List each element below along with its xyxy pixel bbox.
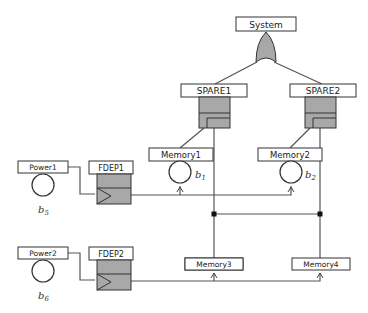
- svg-text:b6: b6: [38, 290, 49, 303]
- fdep-gate-fdep2[interactable]: FDEP2: [89, 247, 133, 290]
- top-event-label: System: [249, 20, 283, 30]
- basic-event-circle-icon: [32, 260, 54, 282]
- basic-event-power1[interactable]: Power1 b5: [18, 161, 68, 217]
- fdep-gate-fdep1[interactable]: FDEP1: [89, 161, 133, 204]
- basic-event-circle-icon: [280, 161, 302, 183]
- svg-text:FDEP1: FDEP1: [98, 164, 124, 173]
- svg-text:Power1: Power1: [29, 163, 57, 172]
- svg-text:FDEP2: FDEP2: [98, 250, 124, 259]
- svg-text:Memory4: Memory4: [303, 260, 339, 269]
- junction-dot: [212, 212, 217, 217]
- svg-text:b1: b1: [195, 169, 206, 182]
- fdep-gate-icon: [97, 260, 131, 290]
- basic-event-power2[interactable]: Power2 b6: [18, 247, 68, 303]
- basic-event-memory2[interactable]: Memory2 b2: [258, 148, 322, 183]
- spare-gate-spare2[interactable]: SPARE2: [290, 84, 356, 128]
- basic-event-circle-icon: [169, 161, 191, 183]
- junction-dot: [318, 212, 323, 217]
- svg-text:Power2: Power2: [29, 249, 57, 258]
- spare-gate-spare1[interactable]: SPARE1: [181, 84, 247, 128]
- or-gate-icon: [256, 32, 276, 62]
- svg-text:Memory2: Memory2: [270, 150, 310, 160]
- spare1-label: SPARE1: [197, 86, 231, 96]
- svg-text:Memory3: Memory3: [196, 260, 232, 269]
- basic-event-memory4[interactable]: Memory4: [292, 258, 350, 270]
- basic-event-circle-icon: [32, 174, 54, 196]
- svg-text:b2: b2: [305, 169, 316, 182]
- basic-event-memory1[interactable]: Memory1 b1: [149, 148, 213, 183]
- fault-tree-diagram: System SPARE1 SPARE2 Memory1 b1 Memory2 …: [0, 0, 368, 313]
- top-event-system[interactable]: System: [236, 17, 296, 31]
- fdep-gate-icon: [97, 174, 131, 204]
- spare2-label: SPARE2: [306, 86, 340, 96]
- svg-text:b5: b5: [38, 204, 49, 217]
- svg-text:Memory1: Memory1: [161, 150, 201, 160]
- basic-event-memory3[interactable]: Memory3: [185, 258, 243, 270]
